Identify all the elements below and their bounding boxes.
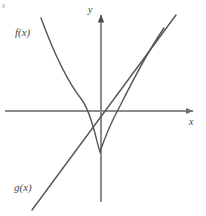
curve-g-line — [32, 15, 176, 210]
curve-f-parabola — [41, 18, 164, 152]
y-axis-label: y — [88, 4, 92, 15]
function-graph-figure: f(x) g(x) y x — [0, 0, 206, 216]
x-axis-label: x — [189, 116, 193, 127]
function-label-g: g(x) — [14, 181, 32, 193]
function-label-f: f(x) — [15, 26, 30, 38]
